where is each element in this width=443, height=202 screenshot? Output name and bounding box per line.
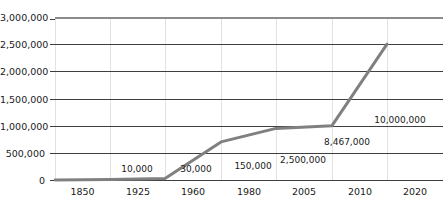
x-tick-label: 2010 [348,186,372,197]
y-tick-label: 3,000,000 [0,12,45,23]
data-label: 8,467,000 [324,137,370,147]
y-tick-label: 1,000,000 [0,120,45,131]
y-tick-label: 500,000 [0,147,45,158]
x-tick-label: 2005 [292,186,316,197]
y-tick-label: 0 [0,175,45,186]
x-tick-label: 1980 [237,186,261,197]
data-label: 2,500,000 [280,155,326,165]
y-tick-label: 1,500,000 [0,93,45,104]
x-tick-label: 1960 [181,186,205,197]
x-tick-label: 2020 [403,186,427,197]
data-label: 30,000 [180,164,212,174]
y-tick-label: 2,000,000 [0,66,45,77]
data-line-series [55,17,443,180]
population-line-chart: 0 500,000 1,000,000 1,500,000 2,000,000 … [0,0,443,202]
y-tick-label: 2,500,000 [0,39,45,50]
data-label: 150,000 [234,161,271,171]
series-population-polyline [55,44,387,180]
x-tick-label: 1850 [70,186,94,197]
data-label: 10,000 [121,164,153,174]
data-label: 10,000,000 [374,115,426,125]
x-tick-label: 1925 [126,186,150,197]
plot-area [55,17,443,180]
